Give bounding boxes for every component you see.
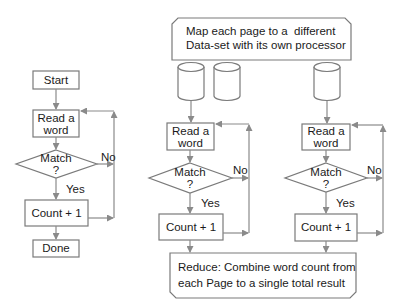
p2-read-line2: word — [314, 137, 339, 149]
read-line1: Read a — [37, 112, 74, 124]
map-line1: Map each page to a different — [186, 24, 346, 38]
p2-match-line2: ? — [323, 178, 329, 190]
done-label: Done — [33, 240, 79, 257]
reduce-line1: Reduce: Combine word count from — [178, 259, 356, 275]
match-line2: ? — [53, 164, 59, 176]
p2-count-text: Count + 1 — [301, 220, 351, 235]
start-text: Start — [44, 73, 68, 88]
database-icon — [214, 63, 240, 101]
p1-count-text: Count + 1 — [166, 220, 216, 235]
p1-match-line1: Match — [174, 166, 205, 178]
database-icon — [314, 63, 340, 101]
p2-count-label: Count + 1 — [295, 214, 357, 241]
p2-yes-label: Yes — [336, 196, 355, 211]
p1-read-word-label: Read a word — [167, 123, 214, 150]
p1-no-label: No — [233, 163, 248, 178]
yes-label: Yes — [66, 182, 85, 197]
match-label: Match ? — [26, 150, 86, 178]
no-label: No — [101, 150, 116, 165]
start-label: Start — [33, 71, 79, 89]
dataset-cylinders — [178, 63, 340, 101]
p2-match-line1: Match — [310, 166, 341, 178]
count-label: Count + 1 — [25, 200, 88, 226]
p1-read-line1: Read a — [172, 125, 209, 137]
match-line1: Match — [40, 152, 71, 164]
read-line2: word — [44, 124, 69, 136]
map-label: Map each page to a different Data-set wi… — [186, 24, 346, 52]
p1-yes-label: Yes — [201, 196, 220, 211]
p2-read-line1: Read a — [307, 125, 344, 137]
p2-match-label: Match ? — [296, 163, 356, 192]
p1-count-label: Count + 1 — [159, 214, 223, 240]
reduce-line2: each Page to a single total result — [178, 275, 356, 291]
database-icon — [178, 63, 204, 101]
count-text: Count + 1 — [31, 206, 81, 221]
p2-no-label: No — [367, 163, 382, 178]
p1-match-line2: ? — [187, 178, 193, 190]
p1-match-label: Match ? — [160, 163, 220, 193]
p2-read-word-label: Read a word — [302, 124, 350, 150]
read-word-label: Read a word — [33, 110, 79, 137]
done-text: Done — [42, 241, 70, 256]
reduce-label: Reduce: Combine word count from each Pag… — [178, 259, 356, 291]
p1-read-line2: word — [178, 137, 203, 149]
map-line2: Data-set with its own processor — [186, 38, 346, 52]
